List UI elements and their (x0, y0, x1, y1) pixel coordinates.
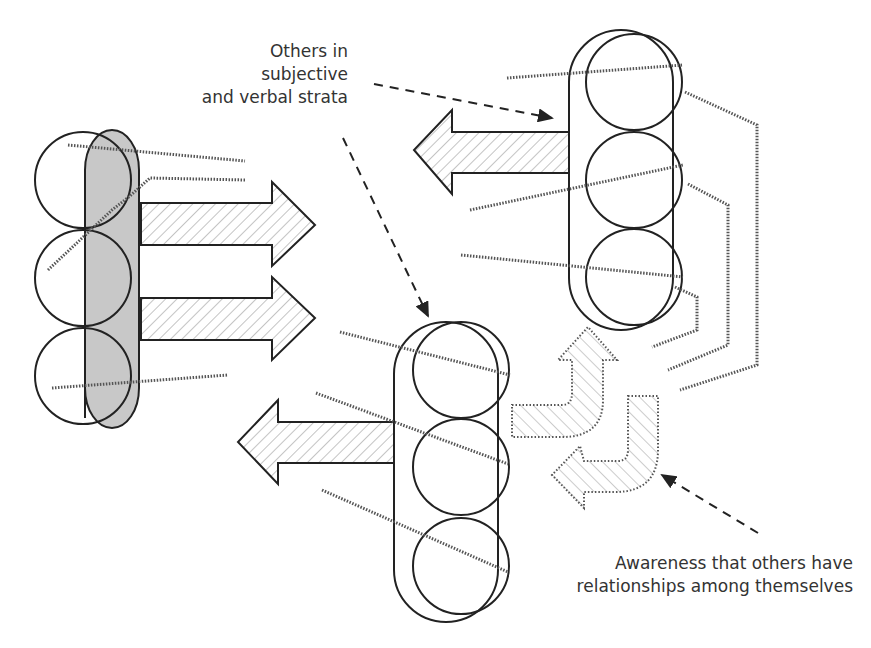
other-figure-bottom-middle (394, 322, 509, 622)
pointer-to-tr-figure (374, 84, 552, 118)
other-capsule-top-right (569, 30, 673, 330)
other-figure-top-right (569, 30, 682, 330)
label-others-strata-line-1: Others in (175, 40, 348, 63)
label-others-strata-line-3: and verbal strata (175, 86, 348, 109)
other-tr-outgoing-arrow (414, 110, 569, 194)
label-awareness-line-2: relationships among themselves (560, 575, 853, 598)
self-outgoing-arrow-top (141, 182, 315, 266)
label-awareness-line-1: Awareness that others have (560, 552, 853, 575)
self-figure (35, 130, 139, 428)
label-others-strata-line-2: subjective (175, 63, 348, 86)
self-dotted-lines (48, 145, 245, 388)
label-awareness: Awareness that others have relationships… (560, 552, 853, 598)
label-others-strata: Others in subjective and verbal strata (175, 40, 348, 109)
pointer-to-bm-figure (343, 138, 428, 316)
diagram-canvas (0, 0, 871, 648)
curved-arrow-up (512, 327, 617, 437)
pointer-to-curved-arrows (662, 475, 758, 533)
other-capsule-bottom-middle (394, 322, 498, 622)
self-outgoing-arrow-bottom (141, 277, 315, 360)
